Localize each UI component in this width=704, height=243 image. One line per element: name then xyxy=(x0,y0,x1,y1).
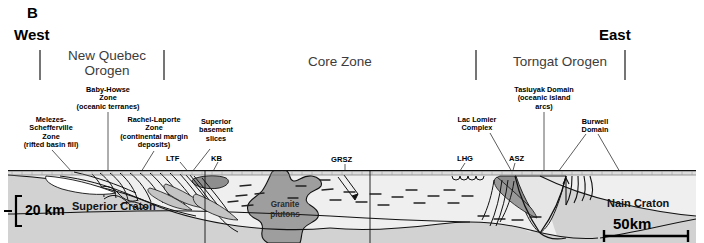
vertical-scale-label: 20 km xyxy=(25,203,65,217)
granite-plutons-line1: Granite xyxy=(255,200,315,210)
horizontal-scale-label: 50km xyxy=(613,216,651,231)
figure-panel-b: B West East New Quebec Orogen Core Zone … xyxy=(0,0,704,243)
label-granite-plutons: Granite plutons xyxy=(255,200,315,219)
label-superior-craton: Superior Craton xyxy=(72,201,156,212)
granite-plutons-line2: plutons xyxy=(255,210,315,220)
label-nain-craton: Nain Craton xyxy=(607,198,669,209)
